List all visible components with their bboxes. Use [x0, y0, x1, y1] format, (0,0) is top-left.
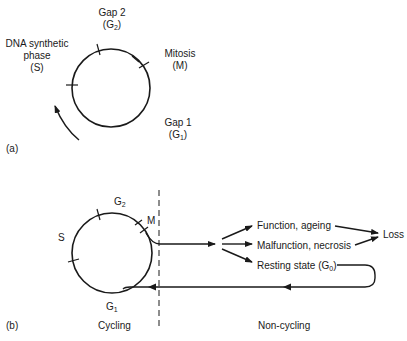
return-loop-arrow	[123, 265, 375, 289]
label-a-s: DNA synthetic phase (S)	[2, 38, 72, 74]
label-b-g1: G1	[106, 301, 118, 316]
panel-a-tag: (a)	[6, 143, 18, 155]
g2-text: Gap 2	[92, 7, 132, 19]
region-noncycling: Non-cycling	[258, 320, 310, 332]
return-arrowhead-mid	[283, 284, 291, 291]
outcome-function: Function, ageing	[257, 220, 331, 232]
g1-abbrev: (G1)	[158, 129, 198, 144]
label-b-m: M	[147, 215, 155, 227]
branch-arrow-function	[222, 226, 252, 239]
arrow-function-to-loss	[335, 226, 378, 233]
g2-abbrev: (G2)	[92, 19, 132, 34]
s-text-2: phase	[2, 50, 72, 62]
return-arrowhead-g1	[148, 284, 156, 291]
s-text-3: (S)	[2, 62, 72, 74]
cycle-direction-arrow	[55, 106, 79, 140]
panel-b-tag: (b)	[6, 320, 18, 332]
arrow-malfunction-to-loss	[355, 237, 378, 245]
m-text: Mitosis	[157, 48, 203, 60]
g1-text: Gap 1	[158, 117, 198, 129]
cell-cycle-circle-b	[68, 209, 152, 293]
label-a-g1: Gap 1 (G1)	[158, 117, 198, 144]
outcome-resting: Resting state (G0)	[257, 260, 337, 275]
cell-cycle-circle-a	[66, 44, 150, 127]
label-a-m: Mitosis (M)	[157, 48, 203, 72]
label-b-g2: G2	[114, 196, 126, 211]
s-text-1: DNA synthetic	[2, 38, 72, 50]
outcome-malfunction: Malfunction, necrosis	[257, 240, 351, 252]
label-b-s: S	[58, 232, 65, 244]
exit-arrow	[146, 233, 215, 244]
m-abbrev: (M)	[157, 60, 203, 72]
branch-arrow-resting	[222, 249, 252, 262]
region-cycling: Cycling	[98, 320, 131, 332]
outcome-loss: Loss	[383, 229, 404, 241]
label-a-g2: Gap 2 (G2)	[92, 7, 132, 34]
